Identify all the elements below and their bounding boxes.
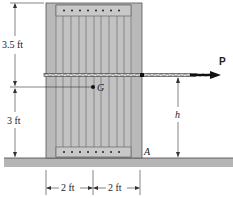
dimension-3-5-ft: 3.5 ft [2,39,23,50]
rope [44,73,209,77]
crate-diagram: P G 3.5 ft 3 ft h A 2 [0,0,233,198]
force-arrow-p [190,71,221,79]
ground [4,158,233,167]
left-dimension [13,3,17,157]
bottom-dimension-right-2-ft: 2 ft [108,182,122,193]
dimension-3-ft: 3 ft [7,115,21,126]
center-of-gravity-dot [91,85,95,89]
crate [46,3,142,158]
bottom-dimension-left-2-ft: 2 ft [61,182,75,193]
h-label: h [175,109,180,120]
force-label-p: P [219,56,226,67]
center-of-gravity-label: G [97,82,104,93]
point-a-label: A [143,146,151,157]
